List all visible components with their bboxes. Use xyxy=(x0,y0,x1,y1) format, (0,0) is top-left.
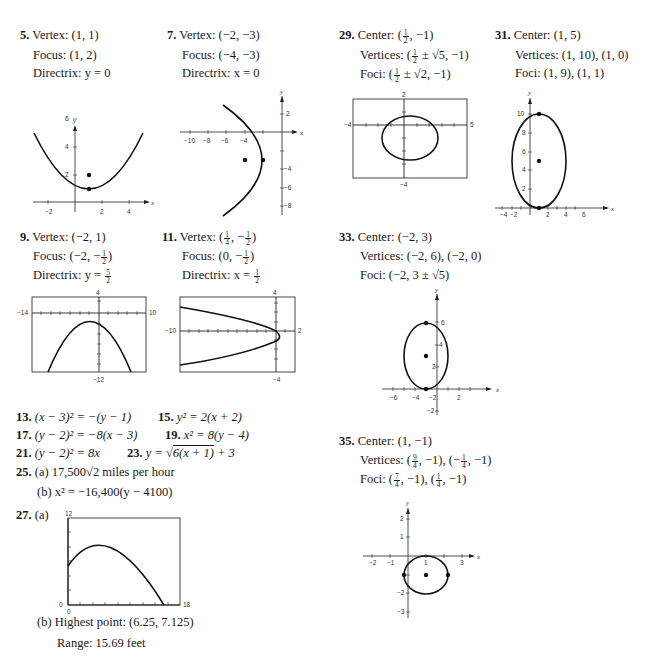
vertex-text: 11. Vertex: (14, −12) xyxy=(162,230,256,246)
denominator: 2 xyxy=(403,37,409,44)
denominator: 2 xyxy=(243,258,249,265)
text: Vertices: ( xyxy=(360,453,411,467)
tick-label: 2 xyxy=(432,363,436,370)
directrix-text: Directrix: y = 0 xyxy=(33,66,111,81)
focus-text: Focus: (0, −12) xyxy=(182,249,254,265)
graph-29: 2 −4 5 −4 xyxy=(320,90,480,200)
axis-label: y xyxy=(72,117,77,125)
answer-text: (y − 2)² = −8(x − 3) xyxy=(35,428,138,442)
tick-label: −10 xyxy=(184,137,195,144)
center-text: Center: (1, 5) xyxy=(514,28,581,42)
text: ) xyxy=(108,249,112,263)
problem-number: 13. xyxy=(16,410,32,424)
directrix-text: Directrix: x = 0 xyxy=(182,66,260,81)
tick-label: 2 xyxy=(546,211,550,218)
problem-number: 5. xyxy=(20,28,29,42)
tick-label: 2 xyxy=(65,171,69,178)
problem-number: 27. xyxy=(16,508,32,522)
fraction: 14 xyxy=(461,454,467,469)
tick-label: −8 xyxy=(203,137,211,144)
answer-text: (x − 3)² = −(y − 1) xyxy=(35,410,131,424)
problem-number: 29. xyxy=(339,28,355,42)
vertices-text: Vertices: (−2, 6), (−2, 0) xyxy=(360,249,481,264)
fraction: 12 xyxy=(412,49,418,64)
tick-label: −1 xyxy=(387,559,395,566)
vertices-text: Vertices: (1, 10), (1, 0) xyxy=(515,48,629,63)
graph-7: −10 −8 −6 −4 2 −4 −6 −8 x y xyxy=(170,90,320,220)
center-text: 29. Center: (12, −1) xyxy=(339,28,433,44)
focus-text: Focus: (−4, −3) xyxy=(182,48,260,63)
tick-label: −2 xyxy=(369,559,377,566)
vertex-text: Vertex: (−2, −3) xyxy=(179,28,259,42)
window-label: 4 xyxy=(96,289,100,296)
problem-number: 15. xyxy=(158,410,174,424)
fraction: 52 xyxy=(105,269,111,284)
denominator: 4 xyxy=(412,462,418,469)
text: , − xyxy=(231,230,244,244)
tick-label: −2 xyxy=(510,211,518,218)
graph-5: −2 2 4 6 4 2 x y xyxy=(0,90,160,220)
answer-text: x² = 8(y − 4) xyxy=(184,428,249,442)
problem-number: 9. xyxy=(20,230,29,244)
answer-text: (a) 17,500√2 miles per hour xyxy=(35,465,175,479)
text: ± √5, −1) xyxy=(419,48,469,62)
window-label: −14 xyxy=(17,309,28,316)
text: , −1) xyxy=(410,28,434,42)
fraction: 94 xyxy=(412,454,418,469)
problem-number: 23. xyxy=(127,446,143,460)
text: Directrix: x = xyxy=(182,268,253,282)
tick-label: 3 xyxy=(460,559,464,566)
text: ± √2, −1) xyxy=(401,67,451,81)
problem-number: 31. xyxy=(495,28,511,42)
window-label: 5 xyxy=(470,121,474,128)
text: , −1) xyxy=(468,453,492,467)
fraction: 12 xyxy=(245,231,251,246)
tick-label: −2 xyxy=(427,407,435,414)
fraction: 12 xyxy=(403,29,409,44)
tick-label: 8 xyxy=(522,129,526,136)
axis-label: y xyxy=(434,286,439,294)
answer-text: + 3 xyxy=(214,446,235,460)
denominator: 2 xyxy=(254,277,260,284)
text: Foci: ( xyxy=(360,67,393,81)
fraction: 12 xyxy=(394,68,400,83)
text: Focus: (0, − xyxy=(182,249,242,263)
tick-label: 10 xyxy=(517,110,525,117)
text: , −1), (− xyxy=(419,453,460,467)
problem-number: 11. xyxy=(162,230,177,244)
graph-35: −2 −1 1 3 2 1 −2 −3 x y xyxy=(360,500,510,625)
tick-label: −2 xyxy=(45,208,53,215)
part-label: (a) xyxy=(35,508,49,522)
tick-label: 6 xyxy=(441,319,445,326)
answer-text: y² = 2(x + 2) xyxy=(177,410,242,424)
problem-number: 7. xyxy=(167,28,176,42)
text: Center: ( xyxy=(358,28,402,42)
tick-label: −6 xyxy=(284,184,292,191)
tick-label: 6 xyxy=(582,211,586,218)
vertices-text: Vertices: (12 ± √5, −1) xyxy=(360,48,469,64)
graph-33: −6 −4 −2 2 6 4 2 −2 x y xyxy=(340,290,500,420)
focus-text: Focus: (−2, −12) xyxy=(33,249,112,265)
window-label: 18 xyxy=(183,601,191,608)
tick-label: 2 xyxy=(100,208,104,215)
fraction: 12 xyxy=(254,269,260,284)
fraction: 74 xyxy=(394,473,400,488)
tick-label: 4 xyxy=(127,208,131,215)
tick-label: 6 xyxy=(65,115,69,122)
axis-label: y xyxy=(527,89,532,97)
denominator: 2 xyxy=(101,258,107,265)
tick-label: −2 xyxy=(397,589,405,596)
denominator: 2 xyxy=(412,57,418,64)
tick-label: −3 xyxy=(397,608,405,615)
answer-text: y = √ xyxy=(146,446,173,460)
tick-label: −8 xyxy=(284,202,292,209)
axis-label: y xyxy=(405,499,410,507)
tick-label: 2 xyxy=(457,394,461,401)
text: Directrix: y = xyxy=(33,268,104,282)
axis-label: x xyxy=(476,553,481,561)
directrix-text: Directrix: x = 12 xyxy=(182,268,261,284)
window-label: 10 xyxy=(149,309,157,316)
window-label: −4 xyxy=(344,121,352,128)
denominator: 4 xyxy=(224,239,230,246)
tick-label: 2 xyxy=(522,185,526,192)
